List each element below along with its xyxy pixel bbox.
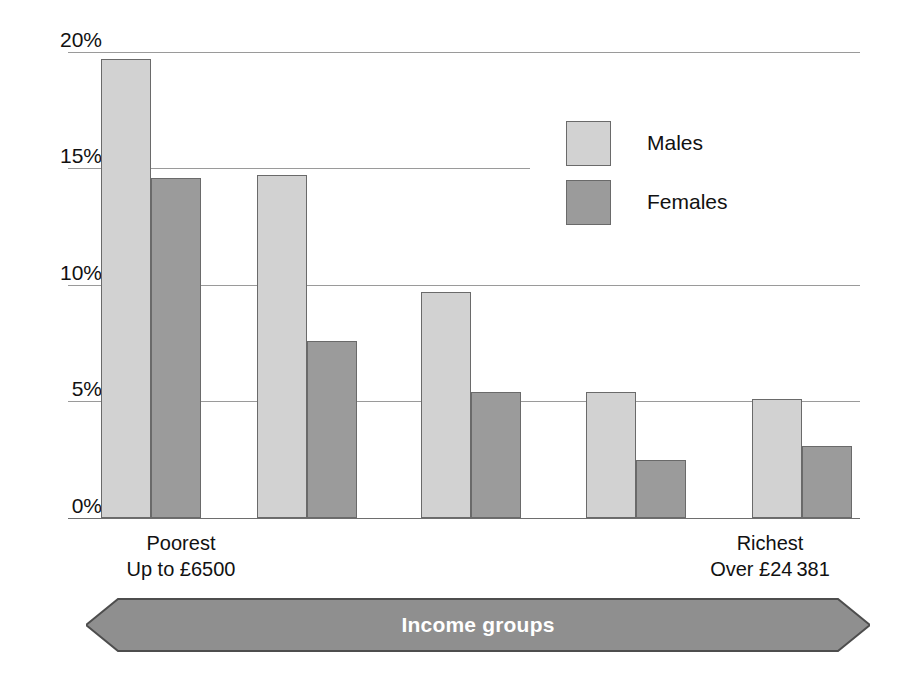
category-caption-richest-line1: Richest — [655, 530, 885, 556]
category-caption-poorest: Poorest Up to £6500 — [66, 530, 296, 582]
legend-swatch-females-icon — [566, 180, 611, 225]
legend-label-males: Males — [647, 131, 703, 155]
ytick-label-20: 20% — [0, 28, 102, 52]
x-axis-arrow-banner: Income groups — [86, 597, 870, 653]
axis-baseline-0 — [68, 518, 860, 519]
bar-males-group-2 — [257, 175, 307, 518]
gridline-20 — [68, 52, 860, 53]
bar-males-group-1 — [101, 59, 151, 518]
bar-males-group-3 — [421, 292, 471, 518]
chart-figure: 20% 15% 10% 5% 0% Males Females P — [0, 0, 906, 679]
bar-females-group-4 — [636, 460, 686, 518]
bar-females-group-1 — [151, 178, 201, 518]
ytick-label-15: 15% — [0, 144, 102, 168]
bar-males-group-4 — [586, 392, 636, 518]
double-arrow-icon — [86, 597, 870, 653]
ytick-label-0: 0% — [0, 494, 102, 518]
legend-item-males: Males — [566, 120, 826, 166]
category-caption-richest: Richest Over £24 381 — [655, 530, 885, 582]
bar-females-group-2 — [307, 341, 357, 518]
category-caption-poorest-line1: Poorest — [66, 530, 296, 556]
ytick-label-5: 5% — [0, 377, 102, 401]
bar-females-group-5 — [802, 446, 852, 518]
bar-males-group-5 — [752, 399, 802, 518]
bar-females-group-3 — [471, 392, 521, 518]
legend-label-females: Females — [647, 190, 728, 214]
chart-legend: Males Females — [566, 120, 826, 238]
legend-swatch-males-icon — [566, 121, 611, 166]
legend-item-females: Females — [566, 179, 826, 225]
category-caption-richest-line2: Over £24 381 — [655, 556, 885, 582]
ytick-label-10: 10% — [0, 261, 102, 285]
category-caption-poorest-line2: Up to £6500 — [66, 556, 296, 582]
